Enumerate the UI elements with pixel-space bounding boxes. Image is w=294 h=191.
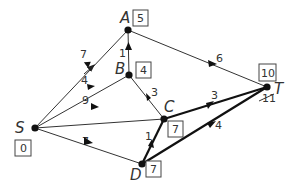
edge-weight: 1 [119,47,126,60]
distance-label: 7 [150,163,157,176]
edge-weight: 6 [216,52,223,65]
edge-weight: 4 [215,119,222,132]
edge-S-C: 9 [35,94,164,128]
graph-canvas: 7 9 7 1 3 6 4 3 1 4 [0,0,294,191]
distance-label: 5 [137,12,144,25]
distance-label: 10 [261,67,275,80]
edge-weight: 3 [211,89,218,102]
edge-weight: 7 [80,48,87,61]
node-D: D 7 [130,160,161,184]
svg-text:C: C [164,98,175,116]
svg-text:S: S [15,119,25,137]
distance-label: 7 [172,123,179,136]
edge-weight: 4 [81,74,88,87]
distance-label: 0 [20,142,27,155]
distance-label: 4 [140,64,147,77]
svg-text:D: D [130,166,142,184]
edge-weight: 9 [82,94,89,107]
edge-weight: 3 [151,86,158,99]
node-B: B 4 [115,60,151,79]
node-T: T 10 11 [259,64,285,105]
edge-C-T: 3 [164,87,267,119]
svg-text:B: B [115,60,125,78]
edge-S-D: 7 [35,128,142,164]
node-A: A 5 [119,9,148,34]
node-S: S 0 [15,119,39,156]
svg-text:A: A [119,9,130,27]
